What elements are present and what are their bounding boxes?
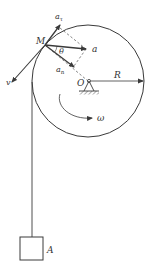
theta-label: θ: [59, 47, 64, 56]
ground-hatch: [79, 91, 99, 95]
point-m-label: M: [35, 36, 46, 46]
parallelogram-dashed-top: [60, 28, 86, 49]
block-label: A: [46, 245, 54, 255]
omega-label: ω: [97, 113, 105, 123]
velocity-label: v: [6, 78, 11, 87]
a-total-label: a: [92, 44, 97, 54]
a-total-vector: [45, 45, 86, 49]
parallelogram-dashed-right: [74, 49, 86, 66]
omega-arc-arrow: [59, 94, 92, 118]
center-label: O: [77, 78, 85, 88]
theta-arc: [55, 46, 57, 52]
block-a: [20, 237, 43, 260]
a-tau-label: aτ: [55, 12, 63, 22]
pulley-diagram: A M aτ a θ an v O R ω: [0, 0, 150, 272]
radius-label: R: [113, 70, 121, 80]
a-tau-vector: [45, 25, 60, 45]
a-n-label: an: [56, 65, 65, 75]
velocity-vector: [12, 45, 45, 82]
